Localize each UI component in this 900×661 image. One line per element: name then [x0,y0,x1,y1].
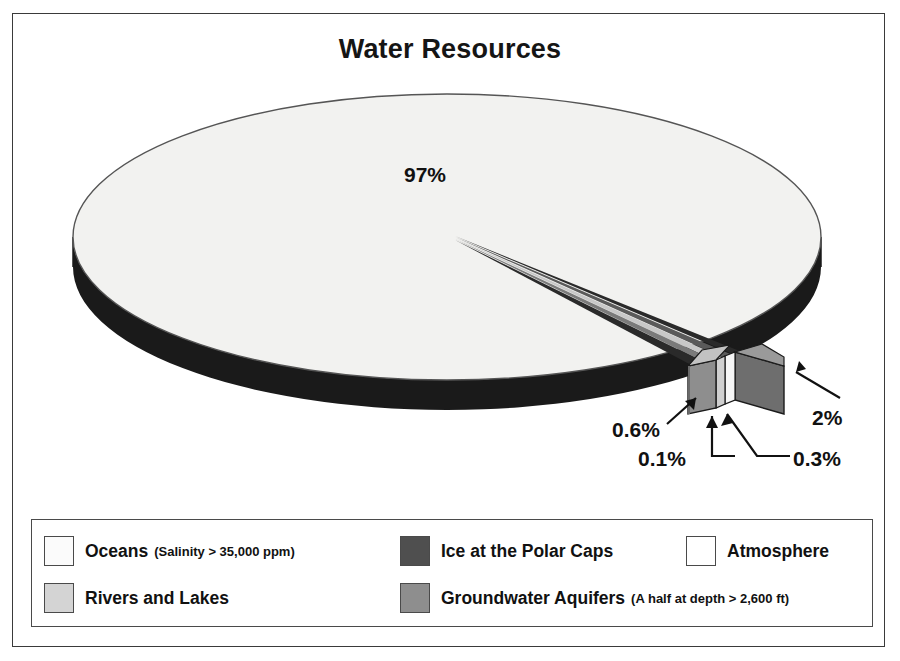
legend-row-2: Rivers and Lakes Groundwater Aquifers (A… [32,575,874,621]
legend-row-1: Oceans (Salinity > 35,000 ppm) Ice at th… [32,528,874,574]
legend-item-oceans[interactable]: Oceans (Salinity > 35,000 ppm) [44,536,295,566]
legend-label-atmosphere: Atmosphere [727,541,829,562]
exploded-small-slices-block[interactable] [688,344,784,414]
block-ice-polar-caps[interactable] [735,344,784,414]
block-atmosphere[interactable] [725,352,735,404]
legend-label-ice-polar-caps: Ice at the Polar Caps [441,541,613,562]
legend-item-rivers-lakes[interactable]: Rivers and Lakes [44,583,229,613]
legend-swatch-oceans [44,536,74,566]
legend-item-groundwater-aquifers[interactable]: Groundwater Aquifers (A half at depth > … [400,583,789,613]
block-rivers-lakes[interactable] [716,356,725,408]
legend-note-groundwater-aquifers: (A half at depth > 2,600 ft) [631,591,789,606]
legend-swatch-rivers-lakes [44,583,74,613]
legend-item-atmosphere[interactable]: Atmosphere [686,536,829,566]
legend-label-rivers-lakes: Rivers and Lakes [85,588,229,609]
slice-label-atmosphere: 0.1% [638,447,686,471]
legend-note-oceans: (Salinity > 35,000 ppm) [154,544,295,559]
legend-swatch-ice-polar-caps [400,536,430,566]
legend-label-oceans: Oceans [85,541,148,562]
legend: Oceans (Salinity > 35,000 ppm) Ice at th… [31,519,873,627]
slice-label-groundwater: 0.6% [612,418,660,442]
pie-slice-oceans[interactable] [73,94,821,380]
legend-label-groundwater-aquifers: Groundwater Aquifers [441,588,625,609]
slice-label-ice-polar-caps: 2% [812,406,842,430]
chart-canvas: Water Resources [0,0,900,661]
slice-label-oceans: 97% [404,163,446,187]
legend-swatch-atmosphere [686,536,716,566]
slice-label-rivers-lakes: 0.3% [793,447,841,471]
legend-swatch-groundwater-aquifers [400,583,430,613]
legend-item-ice-polar-caps[interactable]: Ice at the Polar Caps [400,536,613,566]
